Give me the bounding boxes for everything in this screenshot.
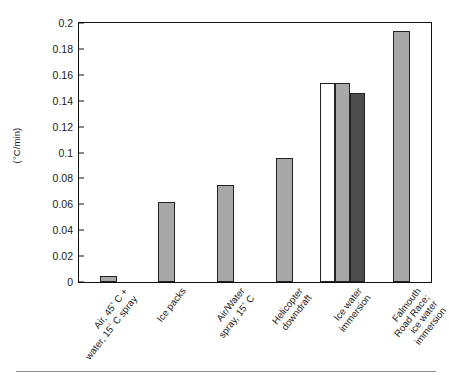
- bar[interactable]: [276, 158, 293, 282]
- y-tick-label: 0.12: [13, 121, 79, 133]
- bar[interactable]: [100, 276, 117, 282]
- plot-area: 00.020.040.060.080.10.120.140.160.180.2: [78, 22, 432, 283]
- y-tick-label: 0.06: [13, 198, 79, 210]
- x-axis-label: Ice waterimmersion: [276, 286, 373, 382]
- y-tick-label: 0.2: [13, 17, 79, 29]
- bar[interactable]: [393, 31, 410, 282]
- bar-group: [196, 23, 255, 282]
- x-axis-label: Ice packs: [100, 286, 188, 382]
- chart-figure: (°C/min) 00.020.040.060.080.10.120.140.1…: [0, 0, 449, 382]
- x-axis-label: Helicopterdowndraft: [217, 286, 314, 382]
- y-tick-label: 0.04: [13, 224, 79, 236]
- y-tick-label: 0.08: [13, 172, 79, 184]
- y-tick-label: 0.18: [13, 43, 79, 55]
- bar-group: [255, 23, 314, 282]
- bar-group: [314, 23, 373, 282]
- bar-group: [138, 23, 197, 282]
- bar-group: [79, 23, 138, 282]
- bar[interactable]: [350, 93, 365, 282]
- y-tick-label: 0.02: [13, 250, 79, 262]
- bar-group: [372, 23, 431, 282]
- bars-layer: [79, 23, 431, 282]
- x-axis-label: FalmouthRoad Race;ice waterimmersion: [335, 286, 448, 382]
- x-axis-label: Air/Waterspray, 15° C: [159, 286, 257, 382]
- y-tick-label: 0: [13, 276, 79, 288]
- bar[interactable]: [320, 83, 335, 282]
- bar[interactable]: [158, 202, 175, 282]
- y-tick-label: 0.14: [13, 95, 79, 107]
- y-tick-label: 0.1: [13, 147, 79, 159]
- x-axis-label: Air, 45° C +water, 15° C spray: [41, 286, 139, 382]
- y-tick-label: 0.16: [13, 69, 79, 81]
- bar[interactable]: [217, 185, 234, 282]
- bar[interactable]: [335, 83, 350, 282]
- bottom-divider: [16, 371, 436, 372]
